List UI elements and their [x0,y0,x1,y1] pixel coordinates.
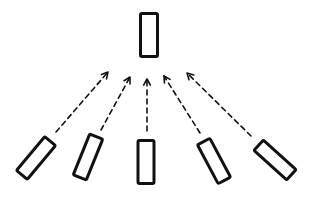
dashed-line [187,73,251,136]
source-box-4 [197,138,230,183]
source-box-3 [138,141,154,184]
target-box [141,14,158,57]
arrow-5 [187,73,251,136]
source-box-2 [73,134,102,180]
source-box-5 [254,140,296,180]
dashed-line [101,77,130,130]
dashed-line [56,72,108,132]
diagram-canvas [0,0,311,197]
arrow-3 [144,79,151,131]
fan-in-diagram [0,0,311,197]
arrow-1 [56,72,108,132]
dashed-line [164,76,200,133]
arrow-2 [101,77,130,130]
arrow-4 [164,76,200,133]
source-box-1 [16,137,55,180]
